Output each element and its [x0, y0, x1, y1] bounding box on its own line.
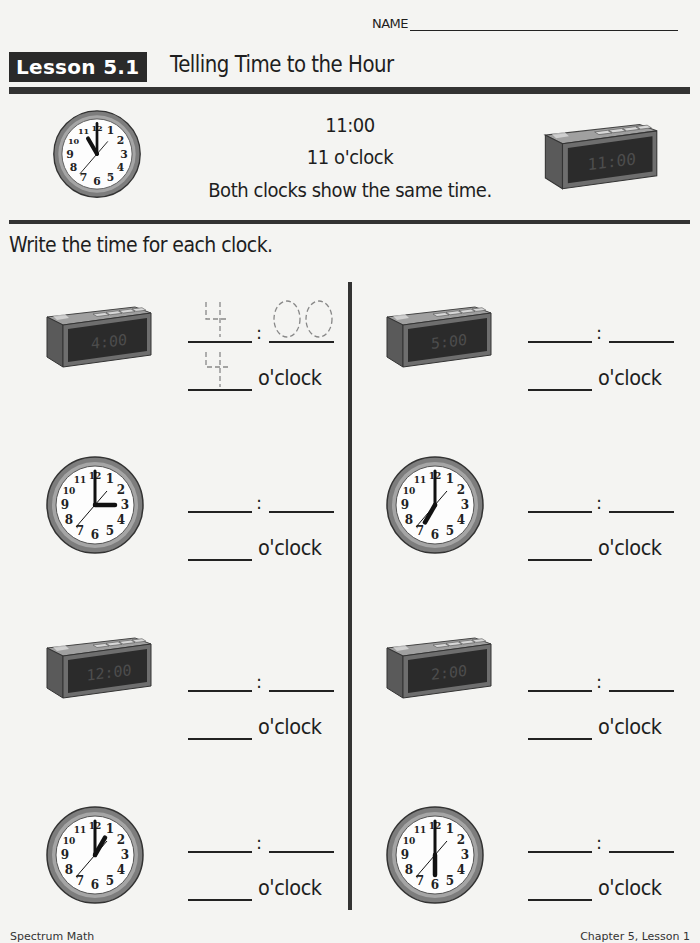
svg-text:4: 4	[117, 161, 125, 174]
minutes-answer-field[interactable]	[609, 511, 674, 513]
oclock-label: o'clock	[258, 536, 322, 560]
hour-answer-field[interactable]	[528, 511, 592, 513]
svg-text:3: 3	[461, 848, 469, 862]
lesson-badge: Lesson 5.1	[9, 52, 147, 82]
oclock-answer-field[interactable]	[188, 389, 252, 391]
svg-text:4: 4	[117, 513, 125, 527]
svg-text:2: 2	[117, 134, 125, 147]
oclock-answer-field[interactable]	[528, 559, 592, 561]
hour-answer-field[interactable]	[188, 511, 252, 513]
example-rule	[9, 220, 690, 224]
digital-clock-icon: 4:00	[43, 301, 153, 371]
svg-text:2: 2	[457, 483, 465, 497]
svg-text:2: 2	[457, 833, 465, 847]
digital-clock-6: 2:00	[383, 632, 493, 702]
minutes-answer-field[interactable]	[609, 690, 674, 692]
name-field[interactable]: NAME	[372, 16, 678, 31]
svg-text:8: 8	[405, 863, 413, 877]
oclock-answer-field[interactable]	[528, 738, 592, 740]
analog-clock-4: 121234567891011	[385, 455, 485, 555]
colon-label: :	[596, 322, 602, 343]
svg-text:1: 1	[107, 124, 115, 137]
name-label: NAME	[372, 16, 408, 31]
svg-text:4: 4	[117, 863, 125, 877]
svg-text:10: 10	[403, 836, 416, 846]
svg-text:8: 8	[405, 513, 413, 527]
oclock-label: o'clock	[258, 366, 322, 390]
svg-text:4: 4	[457, 863, 465, 877]
svg-text:3: 3	[461, 498, 469, 512]
digital-clock-1: 4:00	[43, 301, 153, 371]
clock-face-icon: 121234567891011	[385, 455, 485, 555]
digital-clock-5: 12:00	[43, 632, 153, 702]
colon-label: :	[596, 492, 602, 513]
svg-text:3: 3	[120, 148, 128, 161]
minutes-answer-field[interactable]	[609, 851, 674, 853]
svg-text:11: 11	[414, 825, 427, 835]
svg-text:6: 6	[431, 878, 439, 892]
digital-clock-icon: 5:00	[383, 301, 493, 371]
hour-answer-field[interactable]	[188, 341, 252, 343]
svg-text:8: 8	[65, 863, 73, 877]
svg-text:3: 3	[121, 498, 129, 512]
svg-text:11: 11	[78, 126, 89, 136]
footer-right: Chapter 5, Lesson 1	[580, 930, 690, 943]
svg-text:1: 1	[106, 822, 114, 836]
svg-text:6: 6	[91, 528, 99, 542]
hour-answer-field[interactable]	[188, 690, 252, 692]
oclock-label: o'clock	[598, 715, 662, 739]
example-digital-clock: 11:00	[540, 118, 660, 193]
example-time-text: 11:00	[150, 113, 550, 137]
colon-label: :	[256, 671, 262, 692]
oclock-answer-field[interactable]	[188, 899, 252, 901]
svg-text:6: 6	[431, 528, 439, 542]
clock-face-icon: 121234567891011	[45, 455, 145, 555]
instructions: Write the time for each clock.	[9, 233, 273, 257]
svg-text:9: 9	[61, 848, 69, 862]
oclock-answer-field[interactable]	[528, 389, 592, 391]
minutes-answer-field[interactable]	[269, 690, 334, 692]
svg-text:5: 5	[106, 874, 114, 888]
svg-text:1: 1	[106, 472, 114, 486]
svg-text:10: 10	[403, 486, 416, 496]
svg-text:1: 1	[446, 822, 454, 836]
hour-answer-field[interactable]	[528, 690, 592, 692]
svg-text:6: 6	[91, 878, 99, 892]
digital-clock-2: 5:00	[383, 301, 493, 371]
svg-text:8: 8	[65, 513, 73, 527]
colon-label: :	[256, 492, 262, 513]
minutes-answer-field[interactable]	[269, 341, 334, 343]
svg-text:11: 11	[74, 825, 87, 835]
svg-text:8: 8	[70, 161, 78, 174]
svg-text:5: 5	[446, 874, 454, 888]
oclock-answer-field[interactable]	[188, 738, 252, 740]
oclock-answer-field[interactable]	[188, 559, 252, 561]
oclock-label: o'clock	[258, 715, 322, 739]
hour-answer-field[interactable]	[528, 341, 592, 343]
analog-clock-3: 121234567891011	[45, 455, 145, 555]
minutes-answer-field[interactable]	[269, 851, 334, 853]
svg-text:1: 1	[446, 472, 454, 486]
svg-text:5: 5	[446, 524, 454, 538]
digital-clock-icon: 2:00	[383, 632, 493, 702]
name-line[interactable]	[410, 17, 678, 31]
hour-answer-field[interactable]	[528, 851, 592, 853]
minutes-answer-field[interactable]	[609, 341, 674, 343]
svg-text:9: 9	[66, 148, 74, 161]
footer-left: Spectrum Math	[10, 930, 94, 943]
oclock-answer-field[interactable]	[528, 899, 592, 901]
oclock-label: o'clock	[598, 536, 662, 560]
svg-text:6: 6	[93, 175, 101, 188]
colon-label: :	[256, 322, 262, 343]
hour-answer-field[interactable]	[188, 851, 252, 853]
traced-oclock-digit	[198, 349, 248, 389]
colon-label: :	[596, 832, 602, 853]
lesson-title: Telling Time to the Hour	[170, 51, 394, 77]
analog-clock-7: 121234567891011	[45, 805, 145, 905]
minutes-answer-field[interactable]	[269, 511, 334, 513]
oclock-label: o'clock	[598, 876, 662, 900]
svg-text:11: 11	[414, 475, 427, 485]
svg-text:2: 2	[117, 833, 125, 847]
column-divider	[348, 282, 352, 910]
svg-text:9: 9	[401, 498, 409, 512]
